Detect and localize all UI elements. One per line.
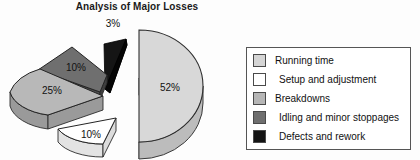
slice-label-defects: 3% <box>106 18 121 29</box>
legend-label-setup: Setup and adjustment <box>279 74 376 85</box>
legend-swatch-defects <box>253 130 266 143</box>
pie-slice-running-time: 52% <box>139 30 203 159</box>
legend-swatch-idling <box>253 111 266 124</box>
slice-label-running-time: 52% <box>160 82 180 93</box>
legend-swatch-running-time <box>253 54 266 67</box>
pie-chart-graphic: 52% 3% 10% 25% <box>0 14 246 160</box>
legend-item-defects: Defects and rework <box>253 127 410 146</box>
pie-chart-figure: Analysis of Major Losses 52% 3% 10% <box>0 0 420 160</box>
slice-label-setup: 10% <box>81 129 101 140</box>
legend-item-running-time: Running time <box>253 51 410 70</box>
chart-title: Analysis of Major Losses <box>52 1 222 12</box>
slice-label-breakdowns: 25% <box>42 85 62 96</box>
chart-legend: Running time Setup and adjustment Breakd… <box>246 47 411 150</box>
legend-item-breakdowns: Breakdowns <box>253 89 410 108</box>
legend-label-breakdowns: Breakdowns <box>275 93 330 104</box>
legend-swatch-setup <box>253 73 266 86</box>
legend-label-idling: Idling and minor stoppages <box>279 112 399 123</box>
legend-item-idling: Idling and minor stoppages <box>253 108 410 127</box>
slice-label-idling: 10% <box>66 62 86 73</box>
legend-label-running-time: Running time <box>275 55 334 66</box>
legend-item-list: Running time Setup and adjustment Breakd… <box>247 48 410 149</box>
legend-label-defects: Defects and rework <box>279 131 365 142</box>
legend-swatch-breakdowns <box>253 92 266 105</box>
pie-slice-setup: 10% <box>58 118 116 157</box>
legend-item-setup: Setup and adjustment <box>253 70 410 89</box>
